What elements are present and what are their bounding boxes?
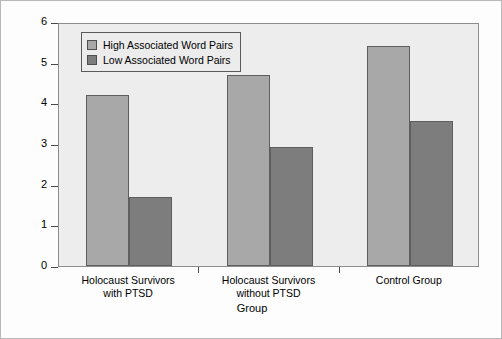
y-tick-label: 3 xyxy=(41,137,47,149)
bar xyxy=(410,121,453,266)
x-axis-category-label: Control Group xyxy=(339,274,479,287)
x-axis-tick-mark xyxy=(339,267,340,273)
legend-item: Low Associated Word Pairs xyxy=(87,52,233,67)
legend-item-label: High Associated Word Pairs xyxy=(103,39,233,51)
legend-item-label: Low Associated Word Pairs xyxy=(103,54,231,66)
y-tick-mark xyxy=(51,104,58,105)
y-tick-mark xyxy=(51,267,58,268)
x-axis-category-label: Holocaust Survivorswith PTSD xyxy=(58,274,198,299)
y-axis-tick: 6 xyxy=(1,23,58,24)
y-tick-label: 0 xyxy=(41,259,47,271)
y-axis-tick: 0 xyxy=(1,267,58,268)
y-axis-tick: 3 xyxy=(1,145,58,146)
bar xyxy=(367,46,410,266)
y-axis-tick: 2 xyxy=(1,186,58,187)
y-axis-tick: 5 xyxy=(1,64,58,65)
y-tick-mark xyxy=(51,64,58,65)
bar xyxy=(227,75,270,266)
legend-swatch-icon xyxy=(87,40,97,50)
x-axis-tick-mark xyxy=(198,267,199,273)
x-axis-title: Group xyxy=(1,302,502,314)
y-tick-label: 1 xyxy=(41,218,47,230)
bar xyxy=(129,197,172,266)
x-axis-category-line: Holocaust Survivors xyxy=(198,274,338,287)
chart-legend: High Associated Word Pairs Low Associate… xyxy=(81,32,241,72)
x-axis-category-line: Control Group xyxy=(339,274,479,287)
legend-swatch-icon xyxy=(87,55,97,65)
y-tick-label: 6 xyxy=(41,15,47,27)
y-tick-label: 5 xyxy=(41,56,47,68)
chart-figure: Recall Performance 0123456 High Associat… xyxy=(0,0,502,339)
y-tick-label: 4 xyxy=(41,96,47,108)
legend-item: High Associated Word Pairs xyxy=(87,37,233,52)
y-tick-label: 2 xyxy=(41,178,47,190)
bar xyxy=(270,147,313,266)
y-tick-mark xyxy=(51,226,58,227)
y-tick-mark xyxy=(51,186,58,187)
y-axis-tick: 1 xyxy=(1,226,58,227)
y-tick-mark xyxy=(51,145,58,146)
x-axis-category-line: with PTSD xyxy=(58,287,198,300)
bar xyxy=(86,95,129,266)
x-axis-category-line: Holocaust Survivors xyxy=(58,274,198,287)
plot-area: High Associated Word Pairs Low Associate… xyxy=(58,23,479,267)
x-axis-category-line: without PTSD xyxy=(198,287,338,300)
y-tick-mark xyxy=(51,23,58,24)
y-axis-tick: 4 xyxy=(1,104,58,105)
x-axis-category-label: Holocaust Survivorswithout PTSD xyxy=(198,274,338,299)
